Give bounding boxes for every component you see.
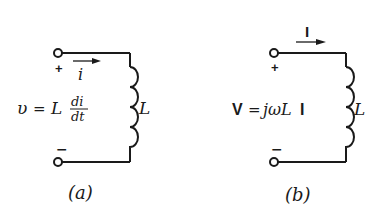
minus-sign-b: −	[271, 141, 283, 157]
inductor-label-b: L	[353, 99, 365, 119]
inductor-coil-a	[130, 67, 138, 148]
caption-a: (a)	[68, 182, 93, 203]
minus-sign-a: −	[56, 141, 68, 157]
equation-lhs-b: V	[232, 101, 243, 118]
inductor-coil-b	[346, 67, 354, 148]
inductor-diagrams: + − i υ = L di dt L (a) I + − V = jωL I …	[0, 0, 385, 223]
fraction-numerator-a: di	[71, 94, 83, 109]
caption-b: (b)	[285, 184, 311, 205]
arrow-head-icon	[316, 39, 326, 45]
equation-current-b: I	[300, 101, 304, 118]
fraction-denominator-a: dt	[71, 109, 85, 124]
equation-equals-a: =	[33, 100, 46, 118]
inductor-label-a: L	[138, 98, 150, 118]
terminal-bottom-a	[54, 158, 62, 166]
current-label-a: i	[78, 65, 83, 84]
equation-lhs-a: υ	[17, 98, 27, 118]
plus-sign-b: +	[271, 60, 279, 75]
equation-L-a: L	[50, 98, 62, 118]
equation-rhs-b: jωL	[260, 100, 292, 119]
terminal-bottom-b	[270, 158, 278, 166]
equation-equals-b: =	[248, 101, 261, 119]
current-label-b: I	[305, 23, 309, 40]
plus-sign-a: +	[55, 61, 63, 76]
terminal-top-a	[54, 49, 62, 57]
arrow-head-icon	[92, 58, 101, 64]
terminal-top-b	[270, 49, 278, 57]
